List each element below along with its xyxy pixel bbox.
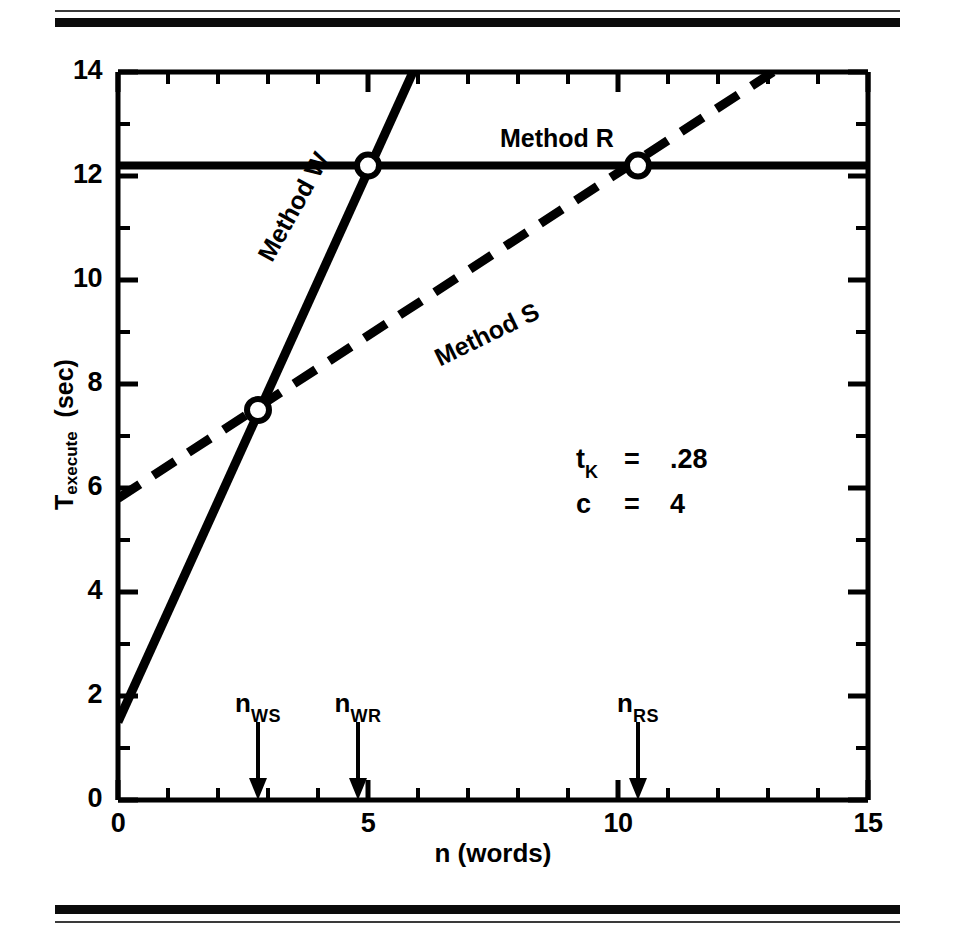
annotation-row-0: tK=.28 [576, 444, 708, 479]
annotation-row-1: c=4 [576, 489, 708, 520]
annotation-equals: = [624, 489, 670, 520]
y-tick-label-10: 10 [40, 263, 102, 294]
series-label-method-r: Method R [500, 124, 614, 153]
x-tick-label-15: 15 [828, 808, 908, 839]
x-axis-title: n (words) [118, 838, 868, 869]
parameter-annotations: tK=.28c=4 [576, 444, 708, 530]
intersection-marker-n-ws [247, 399, 269, 421]
y-axis-title-base: T [50, 495, 78, 510]
axis-marker-label-subscript: RS [633, 706, 659, 726]
series-line-method-s [118, 72, 773, 498]
y-axis-title-subscript: execute [62, 431, 81, 494]
annotation-symbol: tK [576, 444, 624, 479]
annotation-value: 4 [670, 489, 685, 520]
annotation-symbol: c [576, 489, 624, 520]
x-tick-label-0: 0 [78, 808, 158, 839]
marker-arrow-head-n-rs [629, 778, 647, 800]
intersection-marker-n-rs [627, 155, 649, 177]
axis-marker-arrows [249, 722, 647, 800]
axis-marker-label-subscript: WS [251, 706, 281, 726]
intersection-marker-n-wr [357, 155, 379, 177]
chart-plot-area [0, 0, 956, 944]
y-tick-label-12: 12 [40, 159, 102, 190]
figure-container: 02468101214 051015 Texecute (sec) n (wor… [0, 0, 956, 944]
annotation-equals: = [624, 444, 670, 475]
axis-marker-label-n-wr: nWR [335, 688, 382, 723]
y-tick-label-4: 4 [40, 575, 102, 606]
axis-marker-label-base: n [335, 688, 351, 718]
x-axis-ticks [118, 72, 868, 800]
axis-marker-label-base: n [617, 688, 633, 718]
axis-marker-label-base: n [235, 688, 251, 718]
marker-arrow-head-n-wr [349, 778, 367, 800]
annotation-value: .28 [670, 444, 708, 475]
y-axis-title-unit: (sec) [50, 359, 78, 417]
axis-frame [118, 72, 868, 800]
axis-marker-label-n-ws: nWS [235, 688, 281, 723]
x-tick-label-10: 10 [578, 808, 658, 839]
axis-marker-label-subscript: WR [350, 706, 381, 726]
marker-arrow-head-n-ws [249, 778, 267, 800]
y-axis-ticks [118, 72, 868, 800]
y-axis-title: Texecute (sec) [50, 325, 79, 545]
y-tick-label-2: 2 [40, 679, 102, 710]
x-tick-label-5: 5 [328, 808, 408, 839]
y-tick-label-14: 14 [40, 55, 102, 86]
annotation-symbol-subscript: K [585, 462, 598, 482]
axis-marker-label-n-rs: nRS [617, 688, 659, 723]
